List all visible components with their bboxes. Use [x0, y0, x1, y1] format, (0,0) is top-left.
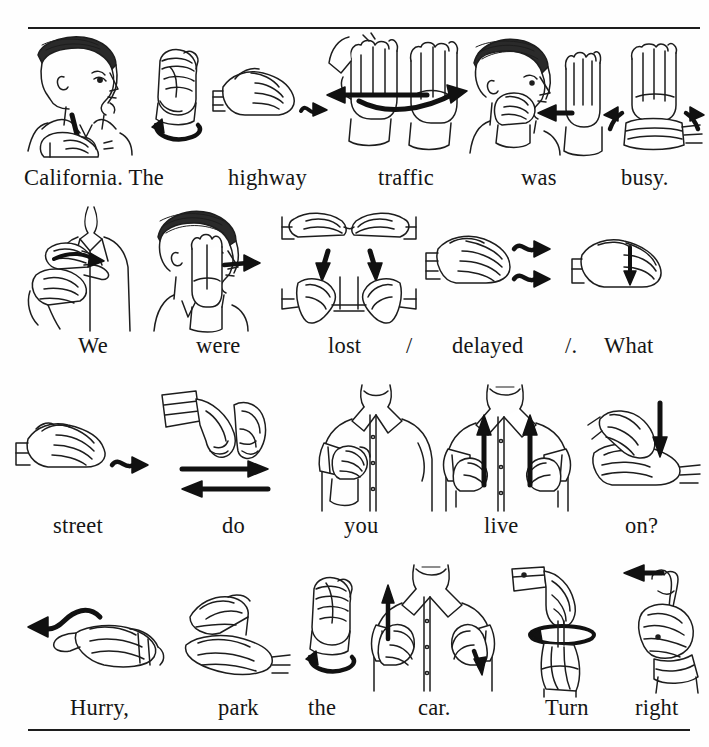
illustration-two-flat-hands-parallel	[8, 403, 158, 508]
caption-word: on?	[625, 513, 658, 539]
caption-word: car.	[418, 695, 451, 721]
sign-row-3-caption: street do you live on?	[0, 513, 709, 543]
illustration-hand-twisting-over-finger	[500, 565, 625, 697]
caption-word: do	[222, 513, 245, 539]
caption-word: street	[53, 513, 103, 539]
lesson-page: California. The highway traffic was busy…	[0, 0, 709, 747]
caption-word: were	[196, 333, 241, 359]
illustration-fist-over-flat-hand	[568, 225, 688, 325]
caption-word: park	[218, 695, 259, 721]
caption-word: you	[344, 513, 378, 539]
illustration-two-fists-together-opening	[272, 205, 427, 333]
illustration-flat-hands-stacked-forward	[422, 223, 572, 328]
bottom-divider-rule	[28, 729, 690, 731]
caption-word: was	[521, 165, 557, 191]
caption-word: lost	[328, 333, 361, 359]
caption-word: California. The	[24, 165, 164, 191]
sign-row-2: We were lost / delayed /. What	[0, 205, 709, 360]
illustration-hand-pointing-across-chest	[18, 205, 153, 333]
caption-word: We	[78, 333, 108, 359]
sign-row-2-caption: We were lost / delayed /. What	[0, 333, 709, 363]
caption-word: busy.	[621, 165, 669, 191]
sign-row-3: street do you live on?	[0, 385, 709, 545]
sign-row-4-caption: Hurry, park the car. Turn right	[0, 695, 709, 725]
illustration-torso-shirt-pointing-front	[308, 385, 443, 513]
illustration-head-profile-pointing-down	[20, 33, 145, 158]
caption-word: the	[308, 695, 336, 721]
caption-word: traffic	[378, 165, 434, 191]
sign-row-4: Hurry, park the car. Turn right	[0, 565, 709, 725]
illustration-profile-head-hand-at-mouth	[148, 205, 278, 333]
caption-word: live	[484, 513, 519, 539]
sign-row-4-illustrations	[0, 565, 709, 685]
caption-word: What	[604, 333, 654, 359]
sign-row-1-caption: California. The highway traffic was busy…	[0, 165, 709, 195]
illustration-b-hand-upright-on-wrist	[602, 41, 707, 156]
caption-word: Turn	[545, 695, 589, 721]
illustration-two-flat-hands-forward	[205, 53, 330, 153]
sign-row-3-illustrations	[0, 385, 709, 505]
caption-word: right	[635, 695, 679, 721]
illustration-v-hand-landing-on-palm	[172, 581, 307, 691]
sign-row-1: California. The highway traffic was busy…	[0, 33, 709, 188]
sign-row-1-illustrations	[0, 33, 709, 153]
illustration-r-hand-upright	[614, 565, 709, 695]
caption-word: delayed	[452, 333, 523, 359]
illustration-claw-hands-moving-sideways	[152, 385, 312, 510]
caption-word: highway	[228, 165, 307, 191]
illustration-torso-shirt-a-hands-upward	[426, 385, 596, 513]
top-divider-rule	[28, 27, 700, 29]
illustration-flat-hand-onto-flat-hand	[586, 397, 708, 509]
illustration-torso-shirt-steering-wheel	[356, 565, 516, 693]
illustration-profile-head-hand-at-cheek	[468, 33, 610, 158]
sign-row-2-illustrations	[0, 205, 709, 325]
caption-word: /.	[565, 333, 577, 359]
illustration-two-open-palms-passing	[315, 33, 475, 158]
illustration-pointing-hand-shaking-left	[18, 585, 173, 685]
caption-word: /	[406, 333, 412, 359]
caption-word: Hurry,	[70, 695, 129, 721]
